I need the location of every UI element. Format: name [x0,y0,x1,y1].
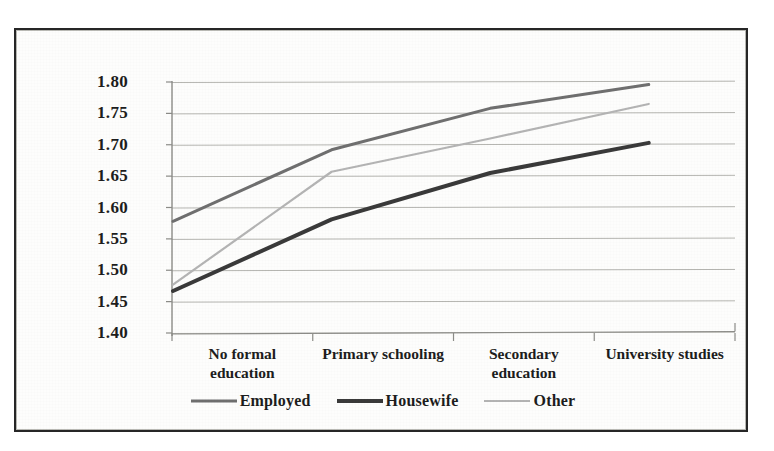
series-line-employed [173,85,649,222]
legend-item-other: Other [484,392,575,410]
legend-item-housewife: Housewife [337,392,459,410]
y-tick-label: 1.40 [68,323,128,343]
y-tick-label: 1.80 [68,72,128,92]
line-chart: 1.80 1.75 1.70 1.65 1.60 1.55 1.50 1.45 … [16,30,750,434]
y-tick-label: 1.65 [68,166,128,186]
y-tick-label: 1.75 [68,103,128,123]
y-axis-tick-labels: 1.80 1.75 1.70 1.65 1.60 1.55 1.50 1.45 … [38,30,128,434]
series-line-housewife [173,143,649,291]
data-series-layer [173,85,649,291]
figure-frame: 1.80 1.75 1.70 1.65 1.60 1.55 1.50 1.45 … [14,28,748,432]
legend-line-icon [191,396,237,406]
legend-item-employed: Employed [191,392,311,410]
legend-line-icon [337,396,383,406]
legend-line-icon [484,396,530,406]
y-tick-label: 1.60 [68,198,128,218]
legend-label: Other [533,392,575,410]
y-tick-label: 1.70 [68,135,128,155]
y-tick-label: 1.55 [68,229,128,249]
y-tick-label: 1.50 [68,260,128,280]
legend-label: Employed [240,392,311,410]
y-axis-ticks [166,82,172,333]
chart-legend: Employed Housewife Other [16,392,750,410]
x-tick-label: University studies [582,345,747,364]
y-tick-label: 1.45 [68,292,128,312]
legend-label: Housewife [386,392,459,410]
